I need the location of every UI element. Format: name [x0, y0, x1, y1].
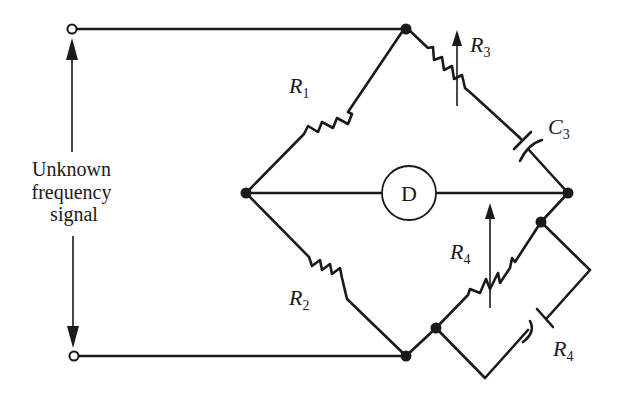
upper-parallel-node — [536, 217, 547, 228]
r1-label: R1 — [288, 73, 309, 101]
wien-bridge-diagram: Unknown frequency signal R1 R2 R3 C3 D — [0, 0, 617, 396]
variable-arrow-icon — [485, 203, 495, 219]
lower-parallel-node — [431, 323, 442, 334]
left-node — [241, 188, 252, 199]
r4-variable-label: R4 — [449, 239, 470, 267]
bottom-link — [406, 328, 436, 356]
c3-label: C3 — [548, 114, 570, 142]
down-arrow-icon — [67, 326, 79, 348]
up-arrow-icon — [66, 38, 78, 60]
top-node — [401, 24, 412, 35]
resistor-r1 — [246, 29, 404, 193]
variable-arrow-icon — [452, 30, 462, 46]
right-node — [563, 188, 574, 199]
top-input-terminal[interactable] — [68, 25, 77, 34]
right-link — [541, 193, 568, 222]
bottom-input-terminal[interactable] — [70, 352, 79, 361]
r2-label: R2 — [288, 285, 309, 313]
detector-label: D — [401, 181, 417, 206]
r4-capacitor-label: R4 — [552, 336, 573, 364]
signal-label: Unknown frequency signal — [32, 158, 117, 226]
resistor-r2 — [246, 193, 406, 356]
capacitor-c3 — [514, 132, 568, 193]
resistor-r4-variable — [436, 203, 541, 328]
r3-label: R3 — [469, 32, 490, 60]
bottom-node — [401, 351, 412, 362]
resistor-r3-variable — [408, 29, 519, 137]
